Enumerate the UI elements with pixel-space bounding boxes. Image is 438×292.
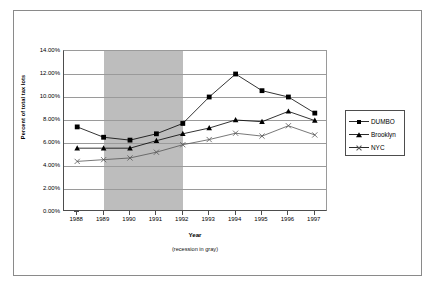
y-axis-tick-label: 12.00% [20,70,60,77]
data-point-triangle [286,108,292,113]
y-axis-tick-label: 8.00% [20,116,60,123]
recession-note: (recession in gray) [63,246,327,252]
y-axis-tick-label: 6.00% [20,139,60,146]
data-point-square [233,72,238,77]
data-point-square [286,95,291,100]
y-axis-tick-label: 14.00% [20,47,60,54]
x-axis-title: Year [63,231,327,238]
x-axis-tick-mark [103,211,104,215]
legend-label: DUMBO [369,118,395,125]
data-point-square [75,125,80,130]
y-axis-tick-label: 0.00% [20,208,60,215]
x-axis-tick-mark [182,211,183,215]
x-axis-tick-mark [129,211,130,215]
legend-label: NYC [369,144,385,151]
y-axis-tick-label: 2.00% [20,185,60,192]
chart-figure: Percent of total tax lots 14.00%12.00%10… [0,0,438,292]
x-axis-tick-mark [155,211,156,215]
y-axis-tick-label: 4.00% [20,162,60,169]
data-point-square [312,111,317,116]
legend-item-dumbo[interactable]: DUMBO [349,115,401,128]
data-point-square [128,138,133,143]
data-point-cross [312,132,317,137]
legend-item-brooklyn[interactable]: Brooklyn [349,128,401,141]
data-point-square [101,135,106,140]
series-brooklyn [74,108,317,150]
data-point-square [180,121,185,126]
data-point-square [207,95,212,100]
data-point-triangle [233,117,239,122]
legend-marker-filled-triangle-icon [349,129,369,140]
x-axis-tick-label: 1997 [297,215,331,223]
x-axis-tick-mark [208,211,209,215]
legend-item-nyc[interactable]: NYC [349,141,401,154]
data-point-cross [286,123,291,128]
series-dumbo [75,72,317,143]
y-axis-tick-label: 10.00% [20,93,60,100]
x-axis-tick-mark [287,211,288,215]
plot-area [63,50,327,211]
series-nyc [75,123,318,164]
legend-label: Brooklyn [369,131,396,138]
y-axis-ticks: 14.00%12.00%10.00%8.00%6.00%4.00%2.00%0.… [16,0,60,292]
x-axis-tick-mark [314,211,315,215]
legend-marker-filled-square-icon [349,116,369,127]
x-axis-tick-mark [261,211,262,215]
legend-marker-cross-x-icon [349,142,369,153]
series-layer [64,51,327,211]
x-axis-tick-mark [76,211,77,215]
data-point-square [260,88,265,93]
series-line [77,74,315,140]
x-axis-tick-mark [235,211,236,215]
data-point-square [154,131,159,136]
legend: DUMBO Brooklyn NYC [345,110,405,156]
